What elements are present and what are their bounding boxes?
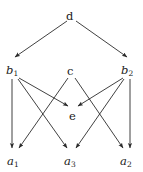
node-label-e: e: [69, 107, 76, 123]
node-base-a2: a: [120, 154, 127, 168]
node-label-d: d: [66, 7, 73, 23]
node-base-b2: b: [121, 63, 128, 77]
node-label-c: c: [67, 62, 73, 78]
node-label-a3: a3: [64, 152, 76, 169]
edge-d-b2: [76, 21, 127, 57]
node-base-e: e: [69, 109, 76, 123]
edge-b1-e: [19, 78, 68, 106]
node-base-a1: a: [7, 154, 14, 168]
edge-c-a2: [75, 78, 123, 148]
graph-edges-canvas: [0, 0, 143, 172]
node-label-b1: b1: [6, 61, 18, 78]
node-base-b1: b: [6, 63, 13, 77]
node-base-a3: a: [64, 154, 71, 168]
node-base-c: c: [67, 64, 73, 78]
edge-d-b1: [15, 21, 67, 57]
node-subscript-b2: 2: [129, 69, 134, 78]
node-subscript-a2: 2: [127, 160, 132, 169]
edge-c-a1: [19, 78, 68, 148]
node-subscript-a1: 1: [14, 160, 19, 169]
node-subscript-a3: 3: [71, 160, 76, 169]
node-subscript-b1: 1: [14, 69, 19, 78]
node-label-b2: b2: [121, 61, 133, 78]
graph-diagram: db1cb2ea1a3a2: [0, 0, 143, 172]
node-label-a2: a2: [120, 152, 132, 169]
node-label-a1: a1: [7, 152, 19, 169]
node-base-d: d: [66, 9, 73, 23]
edge-group: [12, 21, 130, 148]
